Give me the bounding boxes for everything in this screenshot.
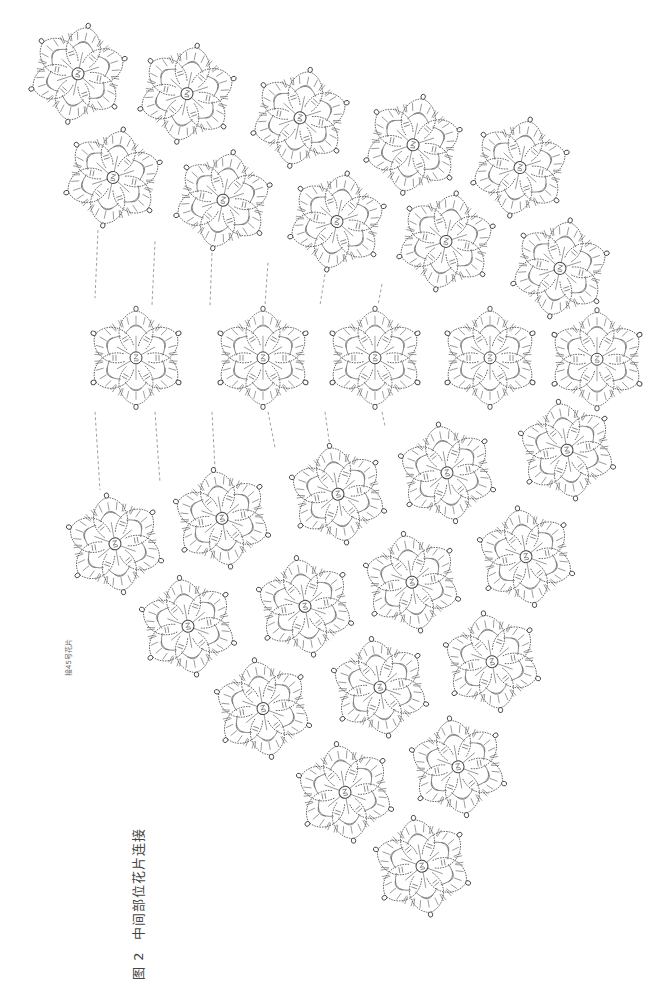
petal (377, 145, 436, 200)
petal (540, 311, 605, 378)
petal (350, 306, 401, 352)
petal (91, 545, 149, 599)
petal (111, 306, 162, 352)
magic-ring-icon (560, 443, 574, 457)
petal (281, 453, 341, 516)
magic-ring-icon (373, 680, 387, 694)
petal (255, 339, 320, 406)
petal (188, 463, 246, 517)
flower-motif (122, 565, 253, 687)
petal (502, 558, 560, 612)
petal (463, 145, 522, 207)
petal (239, 710, 297, 764)
petal (388, 811, 446, 865)
petal (313, 166, 372, 221)
petal (350, 364, 401, 410)
flower-motif (460, 496, 591, 618)
petal (42, 74, 101, 129)
petal (335, 181, 394, 243)
petal (540, 340, 605, 407)
petal (377, 665, 437, 728)
petal (482, 310, 547, 377)
magic-ring-icon (71, 67, 85, 81)
join-line (212, 412, 215, 469)
petal (128, 339, 193, 406)
petal (510, 409, 570, 472)
petal (56, 155, 115, 217)
join-line (378, 284, 382, 305)
flower-motif (426, 601, 557, 723)
petal (356, 689, 414, 743)
petal (401, 725, 461, 788)
petal (410, 242, 469, 297)
petal (264, 118, 323, 173)
flower-motif (493, 206, 627, 331)
petal (444, 201, 503, 263)
flower-motif (540, 308, 655, 411)
petal (89, 122, 148, 177)
petal (492, 501, 550, 555)
flower-motif (346, 521, 477, 643)
petal (302, 584, 362, 647)
petal (433, 310, 498, 377)
petal (260, 687, 320, 750)
magic-ring-icon (406, 138, 420, 152)
flower-motif (379, 179, 513, 304)
magic-ring-icon (451, 760, 465, 774)
magic-ring-icon (257, 352, 269, 364)
petal (221, 160, 280, 222)
petal (389, 219, 448, 281)
petal (280, 199, 339, 261)
petal (54, 18, 113, 73)
magic-ring-icon (338, 785, 352, 799)
petal (311, 737, 369, 791)
petal (589, 340, 654, 407)
petal (76, 34, 135, 96)
magic-ring-icon (108, 537, 122, 551)
petal (185, 54, 244, 116)
petal (389, 89, 448, 144)
magic-ring-icon (181, 619, 195, 633)
flower-motif (501, 389, 632, 511)
magic-ring-icon (591, 353, 603, 365)
petal (572, 308, 623, 354)
petal (536, 213, 595, 268)
magic-ring-icon (405, 575, 419, 589)
petal (411, 105, 470, 167)
petal (356, 123, 415, 185)
petal (206, 339, 271, 406)
petal (444, 451, 504, 514)
petal (288, 751, 348, 814)
petal (484, 168, 543, 223)
petal (434, 768, 492, 822)
figure-number: 图 2 (131, 952, 146, 980)
petal (238, 364, 289, 410)
magic-ring-icon (439, 234, 453, 248)
magic-ring-icon (369, 352, 381, 364)
petal (489, 640, 549, 703)
petal (388, 584, 446, 638)
join-line (95, 412, 100, 490)
petal (199, 144, 258, 199)
petal (409, 560, 469, 623)
magic-ring-icon (331, 487, 345, 501)
flower-motif (346, 82, 480, 207)
flower-motif (120, 31, 254, 156)
petal (187, 201, 246, 256)
flower-motif (392, 706, 523, 828)
petal (435, 620, 495, 683)
magic-ring-icon (298, 599, 312, 613)
petal (238, 306, 289, 352)
petal (564, 428, 624, 491)
petal (164, 628, 222, 682)
petal (58, 502, 118, 565)
petal (423, 474, 481, 528)
petal (523, 535, 583, 598)
petal (321, 794, 379, 848)
join-line (268, 412, 275, 448)
magic-ring-icon (180, 87, 194, 101)
petal (79, 339, 144, 406)
petal (378, 527, 436, 581)
figure-title: 中间部位花片连接 (131, 828, 146, 940)
flower-motif (79, 306, 194, 409)
